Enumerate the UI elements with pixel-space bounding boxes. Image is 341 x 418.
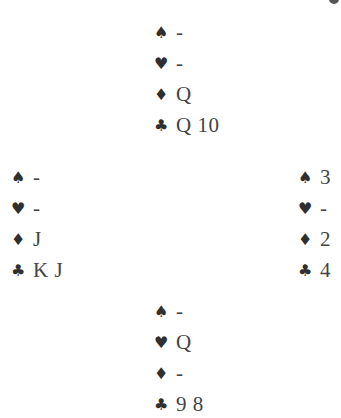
cropped-glyph xyxy=(329,0,339,4)
north-clubs: Q 10 xyxy=(176,110,219,141)
south-clubs: 9 8 xyxy=(176,389,204,418)
east-hearts: - xyxy=(320,193,328,224)
heart-icon: ♥ xyxy=(11,193,33,224)
north-spades: - xyxy=(176,17,184,48)
diamond-icon: ♦ xyxy=(11,224,33,255)
diamond-icon: ♦ xyxy=(154,79,176,110)
heart-icon: ♥ xyxy=(298,193,320,224)
suit-row-diamonds: ♦ Q xyxy=(154,79,219,110)
west-hearts: - xyxy=(33,193,41,224)
west-spades: - xyxy=(33,162,41,193)
diamond-icon: ♦ xyxy=(298,224,320,255)
west-clubs: K J xyxy=(33,255,63,286)
suit-row-diamonds: ♦ 2 xyxy=(298,224,331,255)
diamond-icon: ♦ xyxy=(154,358,176,389)
south-diamonds: - xyxy=(176,358,184,389)
east-spades: 3 xyxy=(320,162,331,193)
spade-icon: ♠ xyxy=(11,162,33,193)
suit-row-hearts: ♥ - xyxy=(154,48,219,79)
south-hearts: Q xyxy=(176,327,192,358)
suit-row-clubs: ♣ K J xyxy=(11,255,63,286)
suit-row-hearts: ♥ - xyxy=(11,193,63,224)
spade-icon: ♠ xyxy=(154,17,176,48)
hand-south: ♠ - ♥ Q ♦ - ♣ 9 8 xyxy=(154,296,204,418)
west-diamonds: J xyxy=(33,224,42,255)
club-icon: ♣ xyxy=(11,255,33,286)
suit-row-diamonds: ♦ J xyxy=(11,224,63,255)
suit-row-clubs: ♣ 9 8 xyxy=(154,389,204,418)
north-diamonds: Q xyxy=(176,79,192,110)
club-icon: ♣ xyxy=(298,255,320,286)
south-spades: - xyxy=(176,296,184,327)
club-icon: ♣ xyxy=(154,389,176,418)
hand-east: ♠ 3 ♥ - ♦ 2 ♣ 4 xyxy=(298,162,331,286)
suit-row-spades: ♠ 3 xyxy=(298,162,331,193)
suit-row-spades: ♠ - xyxy=(154,17,219,48)
suit-row-clubs: ♣ Q 10 xyxy=(154,110,219,141)
heart-icon: ♥ xyxy=(154,48,176,79)
hand-north: ♠ - ♥ - ♦ Q ♣ Q 10 xyxy=(154,17,219,141)
spade-icon: ♠ xyxy=(298,162,320,193)
suit-row-spades: ♠ - xyxy=(11,162,63,193)
north-hearts: - xyxy=(176,48,184,79)
suit-row-hearts: ♥ - xyxy=(298,193,331,224)
suit-row-spades: ♠ - xyxy=(154,296,204,327)
club-icon: ♣ xyxy=(154,110,176,141)
suit-row-diamonds: ♦ - xyxy=(154,358,204,389)
east-clubs: 4 xyxy=(320,255,331,286)
spade-icon: ♠ xyxy=(154,296,176,327)
suit-row-hearts: ♥ Q xyxy=(154,327,204,358)
east-diamonds: 2 xyxy=(320,224,331,255)
heart-icon: ♥ xyxy=(154,327,176,358)
hand-west: ♠ - ♥ - ♦ J ♣ K J xyxy=(11,162,63,286)
suit-row-clubs: ♣ 4 xyxy=(298,255,331,286)
